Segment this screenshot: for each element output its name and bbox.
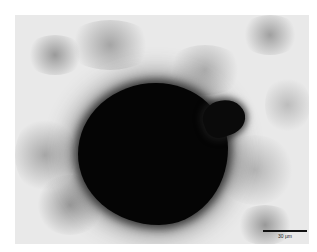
texture-cluster	[240, 15, 300, 55]
scale-bar	[263, 230, 307, 232]
texture-cluster	[65, 20, 155, 70]
spheroid	[78, 83, 228, 225]
micrograph: 30 µm	[15, 15, 309, 244]
scale-bar-label: 30 µm	[270, 233, 300, 239]
texture-cluster	[265, 75, 309, 135]
